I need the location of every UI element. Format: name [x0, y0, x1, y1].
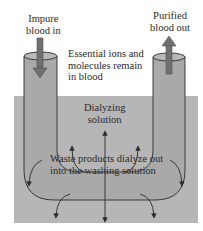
label-line: Purified — [150, 10, 190, 22]
label-line: blood out — [150, 22, 190, 34]
label-line: into the washing solution — [50, 165, 163, 177]
purified-blood-out-label: Purified blood out — [150, 10, 190, 33]
label-line: in blood — [68, 71, 144, 83]
label-line: solution — [84, 114, 125, 126]
impure-blood-in-label: Impure blood in — [26, 13, 61, 36]
label-line: molecules remain — [68, 60, 144, 72]
label-line: blood in — [26, 25, 61, 37]
label-line: Waste products dialyze out — [50, 153, 163, 165]
label-line: Essential ions and — [68, 48, 144, 60]
label-line: Impure — [26, 13, 61, 25]
waste-products-label: Waste products dialyze out into the wash… — [50, 153, 163, 176]
essential-ions-label: Essential ions and molecules remain in b… — [68, 48, 144, 83]
label-line: Dialyzing — [84, 102, 125, 114]
dialyzing-solution-label: Dialyzing solution — [84, 102, 125, 125]
